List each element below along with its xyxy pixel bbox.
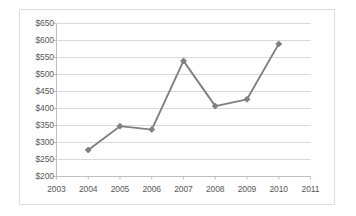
line-chart: $200$250$300$350$400$450$500$550$600$650… bbox=[0, 0, 356, 216]
y-axis-tick-label: $650 bbox=[10, 19, 54, 28]
y-axis-tick-label: $300 bbox=[10, 138, 54, 147]
y-axis-tick-label: $200 bbox=[10, 172, 54, 181]
x-axis-labels: 200320042005200620072008200920102011 bbox=[0, 184, 356, 198]
y-axis-tick-label: $450 bbox=[10, 87, 54, 96]
y-axis-tick-label: $600 bbox=[10, 36, 54, 45]
y-axis-tick-label: $400 bbox=[10, 104, 54, 113]
gridlines bbox=[57, 24, 311, 160]
y-axis-tick-label: $350 bbox=[10, 121, 54, 130]
y-axis-tick-label: $550 bbox=[10, 53, 54, 62]
data-point-marker bbox=[149, 127, 155, 133]
y-axis-tick-label: $500 bbox=[10, 70, 54, 79]
axis-lines bbox=[57, 24, 311, 177]
y-axis-tick-label: $250 bbox=[10, 155, 54, 164]
x-axis-tick-label: 2011 bbox=[291, 184, 331, 194]
